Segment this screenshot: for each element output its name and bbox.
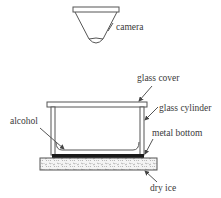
camera-label: camera <box>116 22 144 32</box>
dry-ice-block <box>40 158 157 170</box>
metal-bottom-arrow <box>145 139 153 154</box>
cylinder-right-wall <box>140 107 144 155</box>
glass-cylinder-arrow <box>145 107 158 120</box>
glass-cover-label: glass cover <box>137 73 180 83</box>
glass-cover <box>47 102 147 107</box>
camera-lens <box>89 38 103 43</box>
dry-ice-arrow <box>145 171 157 182</box>
dry-ice-label: dry ice <box>150 183 176 193</box>
glass-cylinder <box>51 107 144 155</box>
camera-top-plate <box>73 7 119 12</box>
metal-bottom <box>52 154 144 158</box>
alcohol-layer <box>56 142 139 150</box>
metal-bottom-label: metal bottom <box>152 128 203 138</box>
cylinder-left-wall <box>51 107 55 155</box>
camera-body <box>75 12 117 39</box>
glass-cylinder-label: glass cylinder <box>159 103 212 113</box>
cloud-chamber-diagram: camera glass cover glass cylinder alcoho… <box>0 0 221 198</box>
glass-cover-arrow <box>139 86 152 101</box>
alcohol-label: alcohol <box>10 116 38 126</box>
